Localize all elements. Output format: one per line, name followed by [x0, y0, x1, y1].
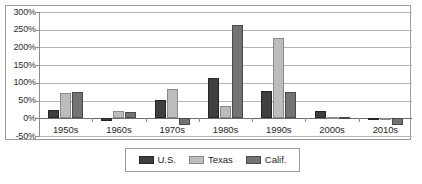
legend-item-us[interactable]: U.S. [139, 155, 176, 165]
chart-legend: U.S. Texas Calif. [125, 148, 300, 172]
bar-us-1970s [155, 100, 166, 118]
bar-us-1990s [261, 91, 272, 118]
x-axis-label-2010s: 2010s [359, 125, 412, 135]
legend-label-us: U.S. [158, 155, 176, 165]
legend-label-calif: Calif. [265, 155, 287, 165]
x-axis-tick-mark [359, 118, 360, 122]
x-axis-label-1950s: 1950s [39, 125, 92, 135]
bar-us-1980s [208, 78, 219, 119]
chart-screenshot: 300%250%200%150%100%50%0%-50% 1950s1960s… [0, 0, 422, 184]
y-axis-tick-label: 150% [0, 61, 36, 70]
x-axis-tick-mark [146, 118, 147, 122]
y-axis-tick-label: 0% [0, 114, 36, 123]
x-axis-tick-mark [92, 118, 93, 122]
bar-texas-1960s [113, 111, 124, 118]
bars-layer [39, 12, 412, 136]
x-axis-label-1970s: 1970s [146, 125, 199, 135]
x-axis-tick-mark [305, 118, 306, 122]
y-axis-tick-label: 200% [0, 43, 36, 52]
y-axis-tick-label: 300% [0, 8, 36, 17]
bar-us-1950s [48, 110, 59, 118]
x-axis-label-1960s: 1960s [92, 125, 145, 135]
bar-us-1960s [101, 118, 112, 120]
legend-swatch-us-icon [139, 156, 154, 164]
gridline-neg50 [39, 136, 412, 137]
y-axis-tick-label: -50% [0, 132, 36, 141]
y-axis-tick-label: 50% [0, 96, 36, 105]
bar-texas-1950s [60, 93, 71, 118]
legend-label-texas: Texas [208, 155, 233, 165]
x-axis-tick-mark [252, 118, 253, 122]
legend-item-calif[interactable]: Calif. [246, 155, 287, 165]
bar-texas-2010s [380, 118, 391, 120]
bar-us-2000s [315, 111, 326, 118]
bar-calif-1980s [232, 25, 243, 119]
bar-texas-1970s [167, 89, 178, 119]
bar-us-2010s [368, 118, 379, 120]
legend-swatch-calif-icon [246, 156, 261, 164]
legend-item-texas[interactable]: Texas [189, 155, 233, 165]
bar-calif-2000s [339, 117, 350, 119]
bar-calif-1950s [72, 92, 83, 118]
y-axis-tick-label: 250% [0, 25, 36, 34]
bar-calif-1990s [285, 92, 296, 118]
x-axis-label-1990s: 1990s [252, 125, 305, 135]
y-axis-tick-label: 100% [0, 78, 36, 87]
x-axis-tick-mark [199, 118, 200, 122]
legend-swatch-texas-icon [189, 156, 204, 164]
bar-texas-1980s [220, 106, 231, 119]
x-axis-label-1980s: 1980s [199, 125, 252, 135]
bar-texas-2000s [327, 117, 338, 119]
bar-calif-1960s [125, 112, 136, 118]
x-axis-label-2000s: 2000s [305, 125, 358, 135]
bar-texas-1990s [273, 38, 284, 118]
